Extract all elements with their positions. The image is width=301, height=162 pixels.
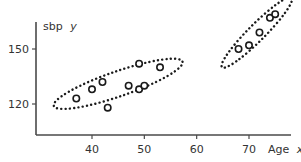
x-tick-label: 50 [137, 143, 151, 156]
data-point [246, 42, 252, 48]
data-points [73, 11, 278, 111]
cluster-ellipses [50, 0, 298, 118]
data-point [89, 86, 95, 92]
x-tick-label: 40 [85, 143, 99, 156]
data-point [73, 95, 79, 101]
x-axis-label-text: Age [268, 143, 290, 156]
data-point [105, 104, 111, 110]
y-tick-label: 120 [8, 98, 29, 111]
y-ticks: 120150 [8, 43, 36, 111]
data-point [125, 82, 131, 88]
data-point [157, 64, 163, 70]
y-axis-label: sbp y [43, 20, 77, 33]
x-tick-label: 70 [242, 143, 256, 156]
scatter-chart: 40506070 120150 sbp y Age x [0, 0, 301, 162]
data-point [256, 29, 262, 35]
data-point [141, 82, 147, 88]
cluster-ellipse-cluster-2 [216, 0, 297, 73]
data-point [136, 60, 142, 66]
y-axis-label-text: sbp [43, 20, 63, 33]
y-tick-label: 150 [8, 43, 29, 56]
x-ticks: 40506070 [85, 135, 256, 156]
x-axis-label-var: x [296, 143, 301, 156]
x-tick-label: 60 [190, 143, 204, 156]
data-point [272, 11, 278, 17]
data-point [235, 46, 241, 52]
data-point [99, 79, 105, 85]
cluster-ellipse-cluster-1 [50, 50, 187, 118]
x-axis-label: Age x [268, 143, 301, 156]
y-axis-label-var: y [69, 20, 77, 33]
